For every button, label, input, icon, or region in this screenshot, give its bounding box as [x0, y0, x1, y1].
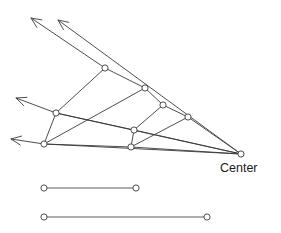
n-top [102, 65, 108, 71]
n-bottom-mid [128, 144, 134, 150]
ray-group [11, 18, 241, 154]
e-leftlower-uppermid [44, 88, 145, 144]
n-inner [131, 127, 137, 133]
e-bottommid-right [131, 117, 188, 147]
edge-group [44, 68, 241, 154]
e-inner-midright [134, 105, 163, 130]
e-midright-right [163, 105, 188, 117]
segment-short-endpoint-left [41, 185, 47, 191]
e-top-leftupper [56, 68, 105, 113]
e-leftupper-leftlower [44, 113, 56, 144]
n-mid-right [160, 102, 166, 108]
segment-long-endpoint-right [204, 214, 210, 220]
ray-top-outer [31, 18, 105, 68]
segment-short-endpoint-right [133, 185, 139, 191]
n-upper-mid [142, 85, 148, 91]
arrowhead-group [11, 18, 69, 145]
n-left-lower [41, 141, 47, 147]
n-left-upper [53, 110, 59, 116]
geometry-diagram: Center [0, 0, 281, 233]
ray-left-lower [11, 139, 44, 144]
figure-root: Center [0, 0, 281, 233]
center-label: Center [220, 161, 258, 175]
n-right [185, 114, 191, 120]
segment-long-endpoint-left [41, 214, 47, 220]
e-top-uppermid [105, 68, 145, 88]
segment-group [41, 185, 210, 220]
center-node [238, 151, 244, 157]
ray-left-upper [16, 98, 56, 113]
